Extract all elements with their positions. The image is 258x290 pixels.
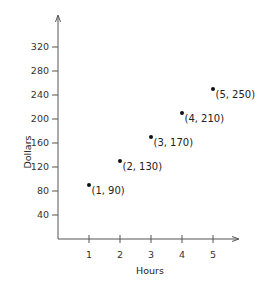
scatter-chart: 4080120160200240280320 12345 (1, 90)(2, … bbox=[0, 0, 258, 290]
y-tick-label: 240 bbox=[31, 89, 49, 100]
data-point-label: (4, 210) bbox=[185, 113, 225, 124]
data-point bbox=[180, 111, 184, 115]
y-tick-label: 280 bbox=[31, 65, 49, 76]
data-point bbox=[211, 87, 215, 91]
y-tick-label: 200 bbox=[31, 113, 49, 124]
data-point bbox=[149, 135, 153, 139]
y-tick-label: 120 bbox=[31, 161, 49, 172]
data-point-label: (5, 250) bbox=[216, 89, 256, 100]
data-point-label: (3, 170) bbox=[154, 137, 194, 148]
x-tick-label: 5 bbox=[210, 249, 216, 260]
x-tick-label: 4 bbox=[179, 249, 185, 260]
axes bbox=[56, 15, 240, 242]
y-tick-label: 80 bbox=[37, 185, 49, 196]
y-axis-ticks: 4080120160200240280320 bbox=[31, 41, 58, 220]
y-tick-label: 160 bbox=[31, 137, 49, 148]
x-tick-label: 1 bbox=[86, 249, 92, 260]
data-point bbox=[118, 159, 122, 163]
data-point-label: (2, 130) bbox=[123, 161, 163, 172]
y-tick-label: 40 bbox=[37, 209, 49, 220]
x-tick-label: 2 bbox=[117, 249, 123, 260]
x-tick-label: 3 bbox=[148, 249, 154, 260]
data-points: (1, 90)(2, 130)(3, 170)(4, 210)(5, 250) bbox=[87, 87, 255, 196]
data-point-label: (1, 90) bbox=[92, 185, 125, 196]
x-axis-title: Hours bbox=[136, 265, 164, 276]
data-point bbox=[87, 183, 91, 187]
y-tick-label: 320 bbox=[31, 41, 49, 52]
y-axis-title: Dollars bbox=[22, 135, 33, 168]
